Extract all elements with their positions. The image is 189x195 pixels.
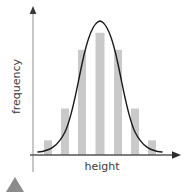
y-axis-arrow-icon — [30, 6, 37, 14]
x-axis-arrow-icon — [172, 151, 181, 159]
bar-4 — [96, 33, 105, 155]
figure-container: frequency height — [0, 0, 189, 195]
normal-distribution-chart: frequency height — [0, 0, 189, 195]
triangle-marker-icon — [6, 177, 24, 192]
bar-1 — [44, 140, 52, 155]
bar-7 — [148, 140, 156, 155]
x-axis-label: height — [57, 160, 147, 173]
y-axis-label: frequency — [10, 53, 23, 121]
histogram-bars — [44, 33, 156, 155]
